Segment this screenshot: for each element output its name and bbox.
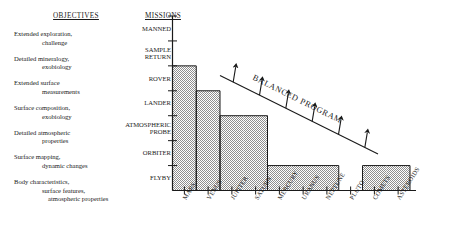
up-arrow-icon (365, 132, 368, 147)
mission-bar-chart (0, 0, 454, 241)
bar (196, 91, 220, 191)
mission-objectives-figure: OBJECTIVES Extended exploration, challen… (0, 0, 454, 241)
bar (173, 66, 197, 191)
up-arrow-icon (233, 67, 236, 82)
